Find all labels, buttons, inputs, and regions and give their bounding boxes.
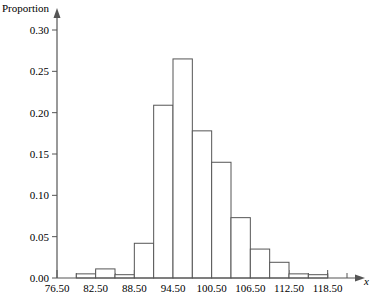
histogram-bar	[270, 262, 289, 278]
histogram-bar	[96, 269, 115, 278]
y-tick-label: 0.25	[30, 65, 50, 77]
histogram-bar	[212, 162, 231, 278]
histogram-bar	[250, 249, 269, 278]
histogram-bar	[76, 274, 95, 278]
y-axis-arrow	[54, 8, 61, 18]
histogram-bar	[192, 131, 211, 278]
y-tick-label: 0.05	[30, 231, 50, 243]
x-tick-label: 112.50	[274, 282, 304, 294]
histogram-bar	[154, 105, 173, 278]
x-tick-label: 76.50	[45, 282, 70, 294]
histogram-bar	[134, 243, 153, 278]
y-tick-label: 0.10	[30, 189, 50, 201]
histogram-bar	[231, 218, 250, 278]
histogram-bar	[289, 274, 308, 278]
y-tick-label: 0.30	[30, 24, 50, 36]
x-tick-label: 88.50	[122, 282, 147, 294]
histogram-plot: 0.000.050.100.150.200.250.30 76.5082.508…	[0, 0, 372, 305]
x-axis-arrow	[355, 275, 365, 282]
y-axis-ticks: 0.000.050.100.150.200.250.30	[30, 24, 57, 284]
x-tick-label: 82.50	[83, 282, 108, 294]
x-tick-label: 100.50	[197, 282, 228, 294]
histogram-bars	[76, 59, 327, 278]
x-tick-label: 118.50	[313, 282, 343, 294]
x-tick-label: 94.50	[161, 282, 186, 294]
x-tick-label: 106.50	[235, 282, 266, 294]
histogram-figure: Proportion x 0.000.050.100.150.200.250.3…	[0, 0, 372, 305]
histogram-bar	[173, 59, 192, 278]
y-tick-label: 0.20	[30, 107, 50, 119]
y-tick-label: 0.15	[30, 148, 50, 160]
